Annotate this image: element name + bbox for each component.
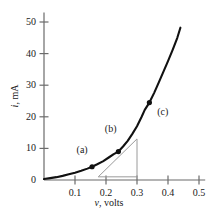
y-axis-units: , mA <box>9 85 20 105</box>
y-tick-label: 50 <box>0 17 36 27</box>
axes-group <box>40 13 206 185</box>
x-tick-label: 0.1 <box>69 188 82 198</box>
data-point-label: (b) <box>105 124 117 134</box>
y-tick-label: 0 <box>0 175 36 185</box>
x-tick-label: 0.4 <box>162 188 175 198</box>
y-tick-label: 40 <box>0 49 36 59</box>
triangle-hypotenuse <box>98 139 137 177</box>
diode-iv-characteristic-figure: (a)(b)(c)010203040500.10.20.30.40.5 v, v… <box>0 0 219 218</box>
data-point-markers <box>89 100 152 169</box>
plot-canvas <box>0 0 219 218</box>
x-tick-label: 0.3 <box>131 188 144 198</box>
y-axis-title: i, mA <box>10 85 20 108</box>
x-tick-label: 0.5 <box>193 188 206 198</box>
x-axis-units: , volts <box>99 197 123 208</box>
slope-triangle <box>98 139 137 177</box>
iv-curve <box>44 28 180 179</box>
y-tick-label: 20 <box>0 112 36 122</box>
data-point-marker <box>116 149 121 154</box>
y-tick-label: 10 <box>0 143 36 153</box>
data-point-marker <box>147 100 152 105</box>
curve-group <box>44 28 180 179</box>
x-axis-title: v, volts <box>95 198 124 208</box>
data-point-label: (c) <box>157 107 168 117</box>
data-point-marker <box>89 164 94 169</box>
y-axis-variable: i <box>9 105 20 108</box>
data-point-label: (a) <box>77 145 88 155</box>
